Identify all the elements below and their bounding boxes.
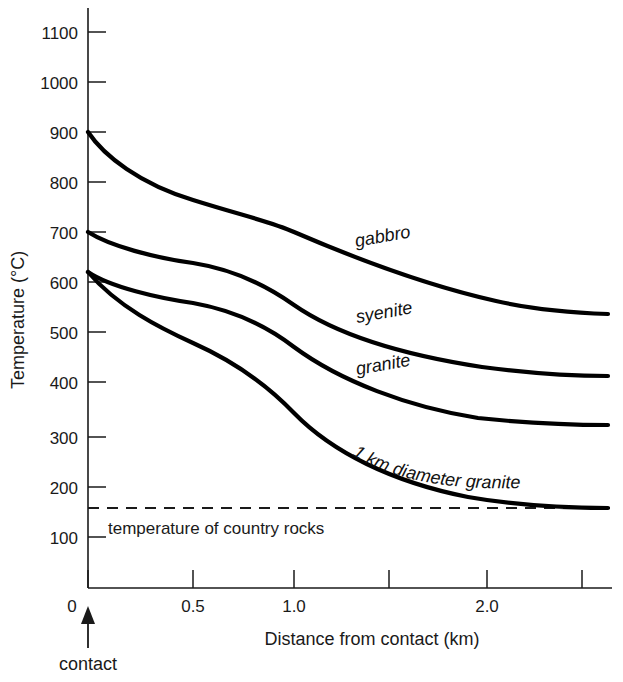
curve-label-granite: granite bbox=[354, 350, 412, 379]
x-tick-label-2-0: 2.0 bbox=[475, 597, 499, 616]
contact-marker: contact bbox=[59, 606, 117, 674]
curve-label-granite-1km-text: 1 km diameter granite bbox=[350, 441, 521, 492]
x-tick-label-1-0: 1.0 bbox=[282, 597, 306, 616]
temperature-distance-chart: 1100 1000 900 800 700 600 500 400 300 20… bbox=[0, 0, 623, 682]
curve-label-syenite: syenite bbox=[354, 297, 414, 327]
y-tick-label-500: 500 bbox=[50, 324, 78, 343]
y-tick-label-700: 700 bbox=[50, 224, 78, 243]
chart-canvas: 1100 1000 900 800 700 600 500 400 300 20… bbox=[0, 0, 623, 682]
y-tick-label-300: 300 bbox=[50, 429, 78, 448]
country-rock-temperature-label: temperature of country rocks bbox=[108, 519, 324, 538]
x-axis-title: Distance from contact (km) bbox=[264, 629, 479, 649]
y-tick-label-400: 400 bbox=[50, 374, 78, 393]
x-axis-ticks bbox=[88, 570, 582, 588]
curve-granite bbox=[88, 272, 608, 425]
y-tick-label-600: 600 bbox=[50, 274, 78, 293]
curve-gabbro bbox=[88, 132, 608, 314]
y-axis-title: Temperature (°C) bbox=[8, 251, 28, 389]
y-tick-label-1000: 1000 bbox=[40, 74, 78, 93]
y-tick-label-200: 200 bbox=[50, 479, 78, 498]
y-tick-label-900: 900 bbox=[50, 124, 78, 143]
curve-label-gabbro: gabbro bbox=[353, 222, 412, 251]
x-axis-tick-labels: 0 0.5 1.0 2.0 bbox=[67, 597, 499, 616]
x-tick-label-0-5: 0.5 bbox=[181, 597, 205, 616]
contact-label: contact bbox=[59, 654, 117, 674]
y-tick-label-1100: 1100 bbox=[41, 24, 78, 43]
curve-group bbox=[88, 132, 608, 508]
y-axis-tick-labels: 1100 1000 900 800 700 600 500 400 300 20… bbox=[40, 24, 78, 548]
y-tick-label-800: 800 bbox=[50, 174, 78, 193]
x-tick-label-0: 0 bbox=[67, 597, 76, 616]
contact-arrow-head-icon bbox=[81, 606, 95, 624]
curve-label-granite-1km: 1 km diameter granite bbox=[350, 441, 521, 492]
y-tick-label-100: 100 bbox=[50, 529, 78, 548]
